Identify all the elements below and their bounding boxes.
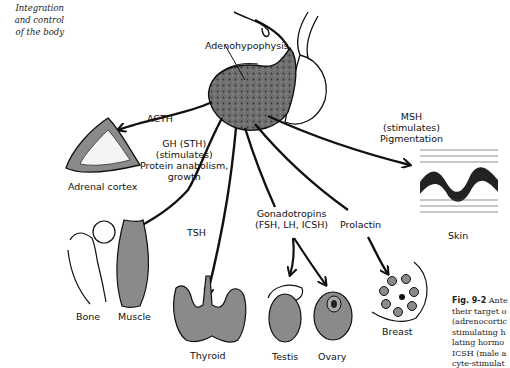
- gonadotropins-label-line: (FSH, LH, ICSH): [255, 219, 328, 230]
- thyroid-illustration: [174, 276, 246, 342]
- gh-label-line: GH (STH): [140, 138, 228, 149]
- prolactin-label: Prolactin: [340, 219, 381, 230]
- gh-label-line: (stimulates): [140, 149, 228, 160]
- ovary-label: Ovary: [318, 351, 346, 362]
- adrenal-cortex-label: Adrenal cortex: [68, 181, 137, 192]
- gonadotropin-arrow: [245, 128, 275, 207]
- testis-illustration: [268, 285, 303, 342]
- gonadotropins-label: Gonadotropins (FSH, LH, ICSH): [255, 208, 328, 230]
- gh-label: GH (STH) (stimulates) Protein anabolism,…: [140, 138, 228, 182]
- figure-caption: Fig. 9-2 Ante their target o (adrenocort…: [452, 296, 510, 368]
- figure-number: Fig. 9-2: [452, 296, 486, 305]
- caption-line: stimulating h: [452, 328, 510, 339]
- msh-label-line: MSH: [380, 111, 443, 122]
- thyroid-label: Thyroid: [190, 350, 226, 361]
- bone-illustration: [68, 221, 115, 304]
- gh-label-line: growth: [140, 171, 228, 182]
- prolactin-arrow-upper: [255, 124, 348, 210]
- gh-label-line: Protein anabolism,: [140, 160, 228, 171]
- caption-line: (adrenocortic: [452, 317, 510, 328]
- ovary-arrow: [294, 238, 326, 285]
- acth-label-line: ACTH: [147, 113, 173, 124]
- muscle-illustration: [117, 220, 149, 308]
- tsh-label-line: TSH: [187, 227, 206, 238]
- prolactin-arrow-lower: [368, 237, 388, 274]
- breast-illustration: [372, 262, 427, 321]
- ovary-illustration: [314, 292, 352, 340]
- caption-line: lating hormo: [452, 338, 510, 349]
- muscle-label: Muscle: [118, 311, 151, 322]
- breast-label: Breast: [382, 326, 413, 337]
- caption-line: ICSH (male a: [452, 349, 510, 360]
- bone-label: Bone: [76, 311, 100, 322]
- prolactin-label-line: Prolactin: [340, 219, 381, 230]
- caption-line: their target o: [452, 307, 510, 318]
- msh-label: MSH (stimulates) Pigmentation: [380, 111, 443, 144]
- testis-label: Testis: [272, 351, 298, 362]
- caption-line: cyte-stimulat: [452, 359, 510, 368]
- acth-label: ACTH: [147, 113, 173, 124]
- gonadotropins-label-line: Gonadotropins: [255, 208, 328, 219]
- msh-label-line: (stimulates): [380, 122, 443, 133]
- skin-label: Skin: [448, 230, 468, 241]
- skin-illustration: [420, 146, 498, 218]
- testis-arrow: [290, 238, 294, 275]
- msh-label-line: Pigmentation: [380, 133, 443, 144]
- adenohypophysis-label: Adenohypophysis: [205, 40, 289, 51]
- pituitary-gland: [209, 12, 327, 130]
- caption-line: Ante: [489, 296, 508, 305]
- tsh-label: TSH: [187, 227, 206, 238]
